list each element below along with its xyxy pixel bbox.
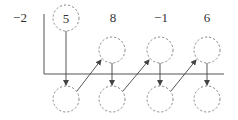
- middle-blank-circle-1: [99, 37, 125, 63]
- arrow-diagonal-icon: [123, 60, 149, 91]
- arrow-diagonal-icon: [171, 60, 196, 91]
- middle-blank-circle-2: [147, 37, 173, 63]
- coefficient-3: −1: [154, 10, 168, 25]
- coefficient-4: 6: [204, 10, 211, 25]
- arrow-diagonal-icon: [77, 60, 101, 91]
- coefficient-2: 8: [110, 10, 117, 25]
- bottom-blank-circle-4: [194, 86, 220, 112]
- bottom-blank-circle-2: [99, 86, 125, 112]
- divisor-value: −2: [13, 10, 27, 25]
- synthetic-division-diagram: −2 5 8 −1 6: [0, 0, 238, 120]
- bottom-blank-circle-1: [53, 86, 79, 112]
- coefficient-1: 5: [63, 11, 70, 26]
- bottom-blank-circle-3: [147, 86, 173, 112]
- middle-blank-circle-3: [194, 37, 220, 63]
